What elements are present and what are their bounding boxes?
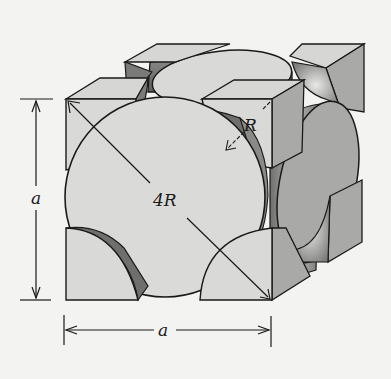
- diagram-svg: 4R R a a: [0, 0, 391, 379]
- vertical-edge-label: a: [31, 188, 41, 208]
- horizontal-edge-label: a: [158, 320, 168, 340]
- radius-label: R: [243, 115, 257, 135]
- fcc-unit-cell-diagram: 4R R a a: [0, 0, 391, 379]
- face-diagonal-label: 4R: [152, 190, 177, 210]
